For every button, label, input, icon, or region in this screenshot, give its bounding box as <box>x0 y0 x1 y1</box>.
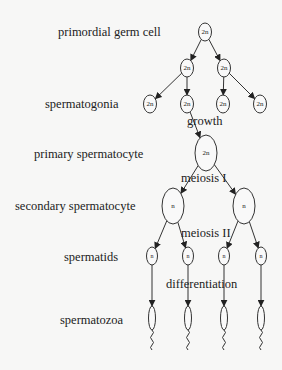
cell-node-g2: 2n <box>218 59 231 77</box>
process-label-differentiation: differentiation <box>166 277 238 291</box>
cell-node-st2: n <box>183 247 194 265</box>
sperm-tail-icon <box>223 330 226 350</box>
spermatozoon-node-sz2 <box>185 306 192 350</box>
nodes: 2n2n2n2n2n2n2n2nnnnnnn <box>144 23 267 350</box>
sperm-head-icon <box>221 306 228 330</box>
cell-node-ss2: n <box>233 188 255 224</box>
ploidy-label: 2n <box>184 64 192 72</box>
cell-node-sg4: 2n <box>254 95 267 113</box>
stage-label-secondary-spermatocyte: secondary spermatocyte <box>15 199 136 213</box>
cell-node-ps: 2n <box>195 135 217 171</box>
sperm-tail-icon <box>151 330 154 350</box>
cell-node-pgc: 2n <box>199 23 212 41</box>
stage-label-spermatozoa: spermatozoa <box>60 313 124 327</box>
ploidy-label: 2n <box>147 100 155 108</box>
ploidy-label: n <box>187 253 190 259</box>
ploidy-label: n <box>223 253 226 259</box>
ploidy-label: 2n <box>257 100 265 108</box>
spermatogenesis-diagram: 2n2n2n2n2n2n2n2nnnnnnn primordial germ c… <box>0 0 282 370</box>
spermatozoon-node-sz3 <box>221 306 228 350</box>
edge-arrow-ss1-st1 <box>155 221 167 249</box>
ploidy-label: 2n <box>220 100 228 108</box>
edge-arrow-g2-sg4 <box>229 73 254 98</box>
stage-label-primary-spermatocyte: primary spermatocyte <box>34 147 144 161</box>
edge-arrow-g2-sg3 <box>223 77 224 95</box>
edge-arrow-ss2-st4 <box>249 222 258 248</box>
diagram-canvas: 2n2n2n2n2n2n2n2nnnnnnn primordial germ c… <box>0 0 282 370</box>
edge-arrow-pgc-g1 <box>191 39 202 60</box>
cell-node-sg1: 2n <box>144 95 157 113</box>
ploidy-label: 2n <box>184 100 192 108</box>
cell-node-ss1: n <box>162 188 184 224</box>
sperm-tail-icon <box>187 330 190 350</box>
cell-node-st3: n <box>219 247 230 265</box>
spermatozoon-node-sz1 <box>149 306 156 350</box>
process-label-growth: growth <box>187 114 223 128</box>
cell-node-st1: n <box>147 247 158 265</box>
process-label-meiosis-i: meiosis I <box>181 171 226 185</box>
spermatozoon-node-sz4 <box>258 306 265 350</box>
stage-label-primordial-germ-cell: primordial germ cell <box>58 25 161 39</box>
edge-arrow-pgc-g2 <box>209 39 220 60</box>
cell-node-sg3: 2n <box>217 95 230 113</box>
sperm-head-icon <box>185 306 192 330</box>
sperm-head-icon <box>149 306 156 330</box>
stage-label-spermatogonia: spermatogonia <box>45 97 119 111</box>
sperm-head-icon <box>258 306 265 330</box>
ploidy-label: n <box>151 253 154 259</box>
cell-node-g1: 2n <box>181 59 194 77</box>
ploidy-label: n <box>260 253 263 259</box>
ploidy-label: 2n <box>202 28 210 36</box>
ploidy-label: 2n <box>221 64 229 72</box>
ploidy-label: n <box>242 202 246 210</box>
stage-label-spermatids: spermatids <box>64 250 118 264</box>
ploidy-label: 2n <box>203 149 211 157</box>
ploidy-label: n <box>171 202 175 210</box>
process-label-meiosis-ii: meiosis II <box>181 226 231 240</box>
cell-node-st4: n <box>256 247 267 265</box>
cell-node-sg2: 2n <box>181 95 194 113</box>
edge-arrow-g1-sg1 <box>155 73 181 99</box>
sperm-tail-icon <box>260 330 263 350</box>
